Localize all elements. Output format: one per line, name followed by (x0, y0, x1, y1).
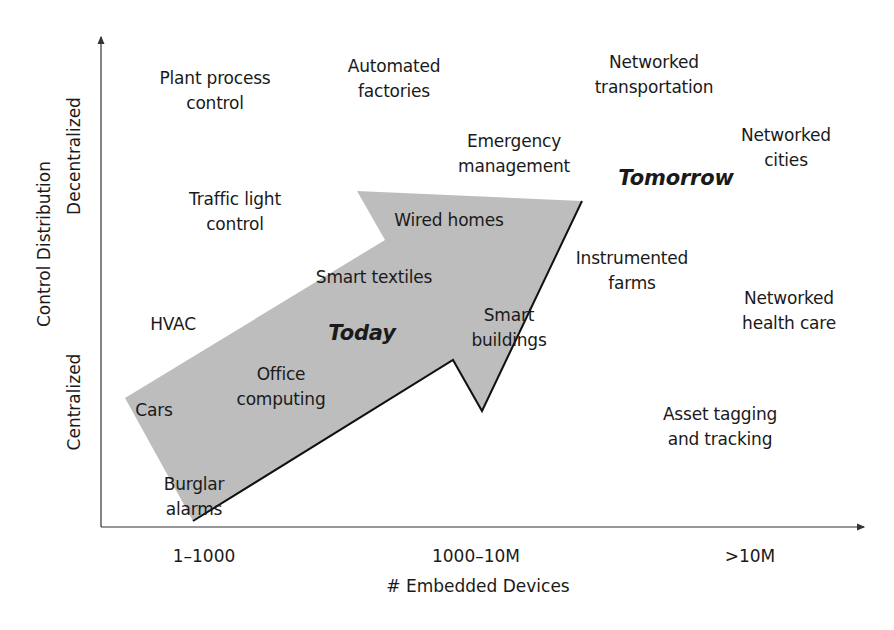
y-tick-centralized: Centralized (64, 354, 84, 451)
y-tick-decentralized: Decentralized (64, 97, 84, 215)
label-instrumented-farms: Instrumentedfarms (576, 246, 688, 296)
label-asset-tagging: Asset taggingand tracking (663, 402, 777, 452)
label-cars: Cars (135, 398, 172, 423)
label-wired-homes: Wired homes (394, 208, 503, 233)
label-emergency-management: Emergencymanagement (458, 129, 570, 179)
label-smart-buildings: Smartbuildings (471, 303, 546, 353)
x-tick-2: 1000–10M (432, 546, 520, 566)
label-networked-cities: Networkedcities (741, 123, 831, 173)
label-plant-process-control: Plant processcontrol (160, 66, 271, 116)
label-office-computing: Officecomputing (236, 362, 325, 412)
x-tick-1: 1–1000 (173, 546, 236, 566)
label-traffic-light-control: Traffic lightcontrol (189, 187, 281, 237)
x-tick-3: >10M (725, 546, 776, 566)
label-automated-factories: Automatedfactories (348, 54, 441, 104)
x-axis-title: # Embedded Devices (386, 576, 569, 596)
label-networked-transportation: Networkedtransportation (595, 50, 714, 100)
label-hvac: HVAC (150, 312, 196, 337)
label-today: Today (328, 321, 395, 346)
label-tomorrow: Tomorrow (618, 166, 733, 191)
label-smart-textiles: Smart textiles (316, 265, 432, 290)
y-axis-title: Control Distribution (34, 161, 54, 327)
label-burglar-alarms: Burglaralarms (164, 472, 225, 522)
label-networked-health-care: Networkedhealth care (742, 286, 836, 336)
